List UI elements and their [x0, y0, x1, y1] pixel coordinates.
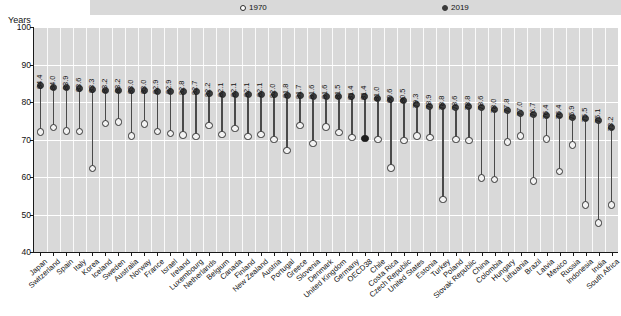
data-value-label: 84.0 — [48, 76, 57, 90]
connector-line — [455, 107, 457, 139]
data-value-label: 79.3 — [411, 93, 420, 107]
data-point-1970 — [154, 128, 162, 136]
connector-line — [299, 96, 301, 126]
data-point-1970 — [400, 137, 408, 145]
data-point-1970 — [115, 118, 123, 126]
data-value-label: 82.1 — [216, 83, 225, 97]
connector-line — [429, 106, 431, 138]
data-point-1970 — [504, 138, 512, 146]
connector-line — [234, 94, 236, 129]
data-value-label: 75.1 — [593, 109, 602, 123]
data-point-1970 — [387, 164, 395, 172]
data-point-1970 — [270, 136, 278, 144]
data-value-label: 83.6 — [74, 77, 83, 91]
data-point-1970 — [348, 134, 356, 142]
data-value-label: 82.2 — [203, 82, 212, 96]
connector-line — [105, 90, 107, 123]
data-value-label: 73.2 — [606, 116, 615, 130]
data-point-1970 — [205, 122, 213, 130]
data-point-1970 — [37, 128, 45, 136]
connector-line — [403, 100, 405, 140]
data-point-1970 — [556, 168, 564, 176]
connector-line — [92, 90, 94, 169]
data-point-1970 — [283, 147, 291, 155]
data-value-label: 83.2 — [100, 79, 109, 93]
data-value-label: 82.8 — [177, 80, 186, 94]
data-point-1970 — [478, 174, 486, 182]
data-point-1970 — [439, 196, 447, 204]
data-point-1970 — [309, 140, 317, 148]
connector-line — [312, 96, 314, 143]
connector-line — [157, 91, 159, 131]
data-value-label: 78.0 — [489, 98, 498, 112]
data-point-1970 — [361, 135, 369, 143]
data-value-label: 75.9 — [567, 106, 576, 120]
data-point-1970 — [374, 136, 382, 144]
connector-line — [364, 97, 366, 139]
connector-line — [481, 107, 483, 178]
data-point-1970 — [426, 134, 434, 142]
data-point-1970 — [102, 120, 110, 128]
connector-line — [66, 87, 68, 131]
connector-line — [260, 94, 262, 134]
data-point-1970 — [491, 176, 499, 184]
data-value-label: 83.2 — [113, 79, 122, 93]
data-value-label: 81.7 — [294, 84, 303, 98]
data-value-label: 82.1 — [242, 83, 251, 97]
connector-line — [208, 94, 210, 126]
connector-line — [533, 114, 535, 181]
connector-line — [559, 116, 561, 172]
data-point-1970 — [76, 128, 84, 136]
connector-line — [131, 91, 133, 136]
data-point-1970 — [141, 120, 149, 128]
data-point-1970 — [465, 137, 473, 145]
connector-line — [221, 94, 223, 134]
data-value-label: 78.6 — [450, 96, 459, 110]
connector-line — [170, 91, 172, 133]
life-expectancy-chart: 1970 2019 Years 405060708090100 84.484.0… — [0, 0, 621, 316]
data-value-label: 82.1 — [229, 83, 238, 97]
data-value-label: 81.5 — [333, 85, 342, 99]
data-value-label: 81.0 — [372, 87, 381, 101]
data-value-label: 84.4 — [35, 74, 44, 88]
data-point-1970 — [257, 131, 265, 139]
data-point-1970 — [63, 127, 71, 135]
data-value-label: 83.3 — [87, 78, 96, 92]
data-point-1970 — [179, 131, 187, 139]
data-value-label: 77.8 — [502, 99, 511, 113]
connector-line — [247, 94, 249, 136]
data-value-label: 81.4 — [346, 85, 355, 99]
data-value-label: 76.7 — [528, 103, 537, 117]
data-value-label: 82.9 — [151, 80, 160, 94]
data-value-label: 80.5 — [398, 89, 407, 103]
connector-line — [40, 86, 42, 133]
data-point-1970 — [167, 130, 175, 138]
data-value-label: 83.0 — [126, 79, 135, 93]
data-point-1970 — [569, 141, 577, 149]
data-value-label: 76.4 — [541, 104, 550, 118]
data-point-1970 — [608, 201, 616, 209]
connector-line — [182, 92, 184, 136]
data-value-label: 78.9 — [424, 95, 433, 109]
connector-line — [611, 128, 613, 205]
data-value-label: 81.6 — [307, 85, 316, 99]
data-point-1970 — [582, 201, 590, 209]
data-value-label: 77.0 — [515, 102, 524, 116]
connector-line — [494, 110, 496, 180]
connector-line — [390, 100, 392, 168]
data-point-1970 — [89, 165, 97, 173]
connector-line — [118, 90, 120, 122]
connector-line — [338, 96, 340, 132]
connector-line — [53, 87, 55, 128]
data-point-1970 — [530, 177, 538, 185]
connector-line — [585, 119, 587, 205]
data-point-1970 — [322, 123, 330, 131]
connector-line — [507, 110, 509, 142]
connector-line — [468, 107, 470, 141]
data-point-1970 — [128, 132, 136, 140]
connector-line — [442, 107, 444, 200]
data-point-1970 — [296, 122, 304, 130]
data-value-label: 75.5 — [580, 107, 589, 121]
data-value-label: 76.4 — [554, 104, 563, 118]
connector-line — [377, 98, 379, 139]
